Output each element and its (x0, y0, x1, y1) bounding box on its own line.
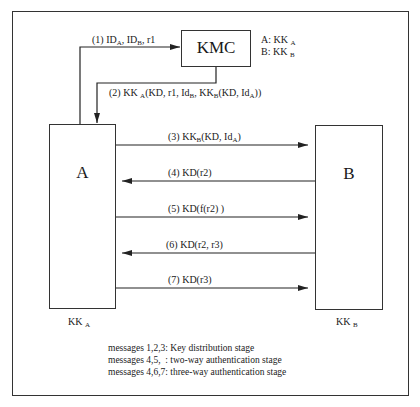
kmc-label: KMC (182, 38, 250, 58)
stage-legend: messages 1,2,3: Key distribution stage m… (108, 342, 286, 378)
legend-line-2: messages 4,5, : two-way authentication s… (108, 354, 286, 366)
msg-5-label: (5) KD(f(r2) ) (168, 203, 224, 214)
msg-4-label: (4) KD(r2) (168, 167, 212, 178)
entity-a-key: KK A (68, 316, 90, 327)
kmc-key-a: A: KK A (261, 34, 296, 45)
msg-3-label: (3) KKB(KD, IdA) (168, 131, 241, 142)
kmc-box: KMC (181, 30, 251, 67)
msg-2-label: (2) KK A(KD, r1, IdB, KKB(KD, IdA)) (109, 87, 261, 98)
msg-6-label: (6) KD(r2, r3) (166, 239, 223, 250)
arrow-msg-1 (80, 47, 180, 124)
msg-7-label: (7) KD(r3) (168, 274, 212, 285)
legend-line-3: messages 4,6,7: three-way authentication… (108, 366, 286, 378)
entity-a-box: A (49, 124, 116, 309)
legend-line-1: messages 1,2,3: Key distribution stage (108, 342, 286, 354)
entity-b-label: B (316, 164, 382, 184)
msg-1-label: (1) IDA, IDB, r1 (92, 34, 155, 45)
entity-b-key: KK B (336, 316, 358, 327)
entity-a-label: A (50, 163, 115, 183)
entity-b-box: B (315, 125, 383, 310)
kmc-key-b: B: KK B (261, 46, 295, 57)
